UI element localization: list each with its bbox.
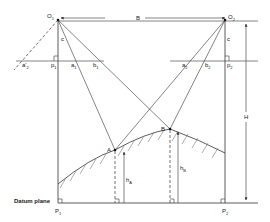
label-point-a: A bbox=[107, 147, 111, 153]
rays-o1 bbox=[14, 20, 170, 150]
label-p2-top: p2 bbox=[227, 62, 233, 70]
label-datum-plane: Datum plane bbox=[14, 198, 51, 204]
label-p1-top: p1 bbox=[51, 62, 57, 70]
terrain-profile bbox=[58, 129, 225, 184]
label-point-b: B bbox=[161, 126, 165, 132]
label-p1-bottom: P1 bbox=[55, 208, 62, 216]
stereo-parallax-diagram: O1 O2 B c c H a'2 p1 a1 b1 a2 b2 p2 A B … bbox=[0, 0, 270, 222]
label-focal-right: c bbox=[227, 36, 230, 42]
label-o1: O1 bbox=[47, 13, 55, 21]
label-b2: b2 bbox=[205, 62, 211, 70]
label-a2: a2 bbox=[182, 62, 188, 70]
label-p2-bottom: P2 bbox=[222, 208, 229, 216]
label-a2-prime: a'2 bbox=[22, 62, 29, 70]
label-o2: O2 bbox=[228, 14, 236, 22]
label-base: B bbox=[136, 15, 140, 21]
label-ha: hA bbox=[126, 177, 132, 185]
label-height: H bbox=[244, 114, 248, 120]
label-hb: hB bbox=[180, 165, 186, 173]
label-b1: b1 bbox=[93, 62, 99, 70]
label-a1: a1 bbox=[71, 62, 77, 70]
label-focal-left: c bbox=[61, 36, 64, 42]
